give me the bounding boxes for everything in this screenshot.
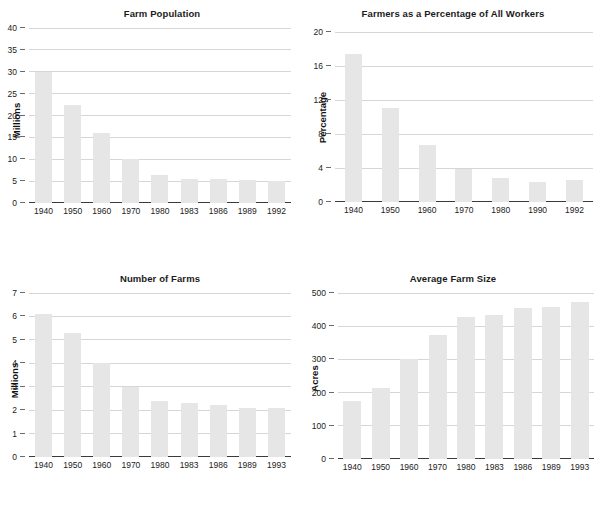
y-axis-tick-label: 25 xyxy=(8,89,25,99)
bar[interactable] xyxy=(457,317,475,459)
y-axis-tick-label: 20 xyxy=(314,27,331,37)
bar-cell xyxy=(87,28,116,203)
x-axis-tick-label: 1980 xyxy=(452,462,480,472)
chart-title: Number of Farms xyxy=(0,273,302,284)
y-axis-tick-label: 5 xyxy=(12,176,25,186)
bar[interactable] xyxy=(268,181,285,203)
y-axis-tick-label: 100 xyxy=(312,421,334,431)
x-axis-tick-label: 1970 xyxy=(116,460,145,470)
x-axis-tick-label: 1950 xyxy=(372,205,409,215)
bar[interactable] xyxy=(382,108,399,202)
bar[interactable] xyxy=(151,175,168,203)
bar[interactable] xyxy=(239,408,256,457)
x-axis-tick-label: 1983 xyxy=(175,206,204,216)
bar[interactable] xyxy=(93,363,110,457)
y-axis-tick-label: 35 xyxy=(8,45,25,55)
bar-cell xyxy=(204,28,233,203)
bar[interactable] xyxy=(35,72,52,203)
y-axis-tick-label: 200 xyxy=(312,388,334,398)
x-axis-tick-label: 1986 xyxy=(509,462,537,472)
x-axis-tick-label: 1960 xyxy=(87,460,116,470)
chart-title: Farm Population xyxy=(0,8,302,19)
bar-cell xyxy=(409,32,446,202)
bar[interactable] xyxy=(429,335,447,460)
plot-area: 01234567 xyxy=(29,293,291,457)
y-axis-tick-label: 400 xyxy=(312,321,334,331)
bar[interactable] xyxy=(93,133,110,203)
bar[interactable] xyxy=(64,333,81,457)
bar-cell xyxy=(175,293,204,457)
chart-number-of-farms: Number of Farms Millions 01234567 194019… xyxy=(0,265,302,511)
bar[interactable] xyxy=(343,401,361,459)
x-axis-tick-label: 1950 xyxy=(58,206,87,216)
x-axis-tick-labels: 194019501960197019801983198619891993 xyxy=(338,462,594,472)
bar[interactable] xyxy=(372,388,390,459)
bar-series xyxy=(29,293,291,457)
bar[interactable] xyxy=(64,105,81,203)
bar[interactable] xyxy=(542,307,560,459)
bar[interactable] xyxy=(566,180,583,202)
y-axis-tick-label: 16 xyxy=(314,61,331,71)
bar-cell xyxy=(87,293,116,457)
bar[interactable] xyxy=(455,169,472,202)
bar-cell xyxy=(204,293,233,457)
x-axis-tick-label: 1980 xyxy=(482,205,519,215)
plot-area: 0510152025303540 xyxy=(29,28,291,203)
plot-area: 0100200300400500 xyxy=(338,293,594,459)
y-axis-tick-label: 20 xyxy=(8,111,25,121)
bar-cell xyxy=(262,293,291,457)
x-axis-tick-label: 1940 xyxy=(335,205,372,215)
bar[interactable] xyxy=(181,403,198,457)
bar-cell xyxy=(175,28,204,203)
bar-cell xyxy=(29,28,58,203)
bar[interactable] xyxy=(571,302,589,459)
bar-cell xyxy=(509,293,537,459)
chart-average-farm-size: Average Farm Size Acres 0100200300400500… xyxy=(302,265,604,511)
bar[interactable] xyxy=(239,180,256,203)
bar-cell xyxy=(116,28,145,203)
bar-cell xyxy=(446,32,483,202)
bar[interactable] xyxy=(181,179,198,204)
bar-cell xyxy=(395,293,423,459)
x-axis-tick-label: 1993 xyxy=(262,460,291,470)
bar-cell xyxy=(145,293,174,457)
bar[interactable] xyxy=(529,182,546,202)
bar[interactable] xyxy=(210,405,227,457)
bar[interactable] xyxy=(400,359,418,459)
x-axis-tick-labels: 1940195019601970198019901992 xyxy=(335,205,593,215)
bar-cell xyxy=(366,293,394,459)
y-axis-tick-label: 500 xyxy=(312,288,334,298)
x-axis-tick-label: 1990 xyxy=(519,205,556,215)
x-axis-tick-label: 1940 xyxy=(29,206,58,216)
chart-farmers-percentage: Farmers as a Percentage of All Workers P… xyxy=(302,0,604,256)
bar[interactable] xyxy=(210,179,227,203)
bar[interactable] xyxy=(514,308,532,459)
x-axis-tick-label: 1950 xyxy=(58,460,87,470)
x-axis-tick-label: 1986 xyxy=(204,460,233,470)
bar[interactable] xyxy=(268,408,285,457)
bar[interactable] xyxy=(345,54,362,202)
bar[interactable] xyxy=(492,178,509,202)
bar-cell xyxy=(335,32,372,202)
bar-series xyxy=(338,293,594,459)
bar[interactable] xyxy=(35,314,52,457)
y-axis-tick-label: 0 xyxy=(12,198,25,208)
bar-cell xyxy=(262,28,291,203)
y-axis-tick-label: 3 xyxy=(12,382,25,392)
bar[interactable] xyxy=(485,315,503,459)
x-axis-tick-label: 1989 xyxy=(537,462,565,472)
y-axis-tick-label: 7 xyxy=(12,288,25,298)
bar-cell xyxy=(556,32,593,202)
y-axis-tick-label: 4 xyxy=(12,358,25,368)
bar[interactable] xyxy=(122,387,139,457)
bar[interactable] xyxy=(419,145,436,202)
x-axis-tick-label: 1980 xyxy=(145,460,174,470)
y-axis-tick-label: 2 xyxy=(12,405,25,415)
bar-cell xyxy=(233,28,262,203)
bar[interactable] xyxy=(122,159,139,203)
x-axis-tick-label: 1989 xyxy=(233,206,262,216)
y-axis-tick-label: 15 xyxy=(8,132,25,142)
scan-artifact xyxy=(175,500,177,507)
bar[interactable] xyxy=(151,401,168,457)
bar-cell xyxy=(29,293,58,457)
